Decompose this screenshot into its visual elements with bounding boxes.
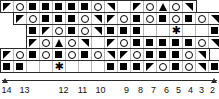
- chart-cell[interactable]: [144, 37, 157, 48]
- chart-cell[interactable]: [79, 49, 92, 60]
- chart-cell[interactable]: [92, 61, 105, 72]
- chart-cell[interactable]: [131, 13, 144, 24]
- chart-cell[interactable]: [40, 61, 53, 72]
- chart-cell[interactable]: [196, 25, 209, 36]
- chart-cell[interactable]: [105, 49, 118, 60]
- chart-cell[interactable]: [14, 13, 27, 24]
- chart-cell[interactable]: [27, 13, 40, 24]
- chart-cell[interactable]: [92, 49, 105, 60]
- chart-cell[interactable]: [144, 1, 157, 12]
- axis-label-10: 10: [94, 85, 107, 96]
- chart-cell[interactable]: [79, 1, 92, 12]
- chart-cell[interactable]: [53, 13, 66, 24]
- chart-cell[interactable]: [40, 13, 53, 24]
- chart-cell[interactable]: [53, 1, 66, 12]
- chart-cell[interactable]: [131, 1, 144, 12]
- chart-cell[interactable]: [40, 49, 53, 60]
- open-circle-icon: [92, 49, 104, 60]
- chart-cell[interactable]: [157, 1, 170, 12]
- chart-cell[interactable]: [209, 37, 219, 48]
- chart-cell[interactable]: [118, 49, 131, 60]
- chart-cell[interactable]: [183, 49, 196, 60]
- chart-cell[interactable]: [92, 37, 105, 48]
- chart-cell[interactable]: [157, 13, 170, 24]
- chart-cell[interactable]: [66, 37, 79, 48]
- chart-cell[interactable]: [1, 49, 14, 60]
- chart-cell[interactable]: [53, 25, 66, 36]
- chart-cell[interactable]: [53, 37, 66, 48]
- chart-cell[interactable]: [79, 37, 92, 48]
- chart-cell[interactable]: [40, 1, 53, 12]
- chart-cell[interactable]: ✱: [170, 25, 183, 36]
- chart-cell[interactable]: [183, 1, 196, 12]
- chart-cell[interactable]: [79, 61, 92, 72]
- chart-cell[interactable]: [170, 61, 183, 72]
- chart-cell[interactable]: [14, 61, 27, 72]
- chart-cell[interactable]: [131, 61, 144, 72]
- chart-cell[interactable]: [92, 1, 105, 12]
- chart-cell[interactable]: [66, 49, 79, 60]
- chart-cell[interactable]: [105, 13, 118, 24]
- chart-cell[interactable]: [118, 37, 131, 48]
- chart-cell[interactable]: [66, 13, 79, 24]
- chart-cell[interactable]: [157, 49, 170, 60]
- chart-cell[interactable]: [27, 37, 40, 48]
- chart-cell[interactable]: [157, 61, 170, 72]
- chart-cell[interactable]: [131, 49, 144, 60]
- chart-cell[interactable]: [40, 25, 53, 36]
- chart-cell[interactable]: [66, 1, 79, 12]
- chart-cell[interactable]: [27, 1, 40, 12]
- filled-square-icon: [14, 61, 26, 72]
- chart-cell[interactable]: [170, 13, 183, 24]
- chart-cell[interactable]: [196, 13, 209, 24]
- chart-cell[interactable]: [144, 13, 157, 24]
- chart-cell[interactable]: [66, 61, 79, 72]
- chart-cell[interactable]: [196, 61, 209, 72]
- chart-cell[interactable]: [131, 25, 144, 36]
- chart-cell[interactable]: [170, 37, 183, 48]
- chart-cell[interactable]: [1, 1, 14, 12]
- chart-cell[interactable]: [1, 61, 14, 72]
- chart-cell[interactable]: [14, 1, 27, 12]
- chart-cell[interactable]: [105, 1, 118, 12]
- chart-cell[interactable]: [183, 61, 196, 72]
- chart-cell[interactable]: [131, 37, 144, 48]
- chart-cell[interactable]: [196, 37, 209, 48]
- chart-cell[interactable]: [27, 61, 40, 72]
- chart-cell[interactable]: [27, 49, 40, 60]
- chart-cell[interactable]: [170, 1, 183, 12]
- chart-cell[interactable]: [92, 13, 105, 24]
- chart-cell[interactable]: [144, 49, 157, 60]
- chart-cell[interactable]: [66, 25, 79, 36]
- chart-cell[interactable]: [105, 25, 118, 36]
- open-circle-icon: [183, 49, 195, 60]
- chart-cell[interactable]: [40, 37, 53, 48]
- chart-cell[interactable]: [118, 61, 131, 72]
- chart-cell[interactable]: [209, 13, 219, 24]
- chart-cell[interactable]: ✱: [53, 61, 66, 72]
- chart-cell[interactable]: [105, 37, 118, 48]
- chart-cell[interactable]: [92, 25, 105, 36]
- chart-cell[interactable]: [183, 37, 196, 48]
- chart-cell[interactable]: [79, 25, 92, 36]
- chart-cell[interactable]: [118, 1, 131, 12]
- chart-cell[interactable]: [14, 49, 27, 60]
- chart-cell[interactable]: [183, 25, 196, 36]
- chart-cell[interactable]: [79, 13, 92, 24]
- chart-cell[interactable]: [105, 61, 118, 72]
- chart-cell[interactable]: [53, 49, 66, 60]
- chart-cell[interactable]: [27, 25, 40, 36]
- chart-cell[interactable]: [118, 25, 131, 36]
- chart-cell[interactable]: [157, 25, 170, 36]
- chart-cell[interactable]: [144, 61, 157, 72]
- chart-cell[interactable]: [157, 37, 170, 48]
- open-circle-icon: [144, 13, 156, 24]
- chart-cell[interactable]: [144, 25, 157, 36]
- chart-cell[interactable]: [209, 61, 219, 72]
- chart-cell[interactable]: [183, 13, 196, 24]
- chart-cell[interactable]: [196, 49, 209, 60]
- chart-cell[interactable]: [118, 13, 131, 24]
- chart-cell[interactable]: [170, 49, 183, 60]
- empty-cell-icon: [66, 61, 78, 72]
- chart-cell[interactable]: [209, 25, 219, 36]
